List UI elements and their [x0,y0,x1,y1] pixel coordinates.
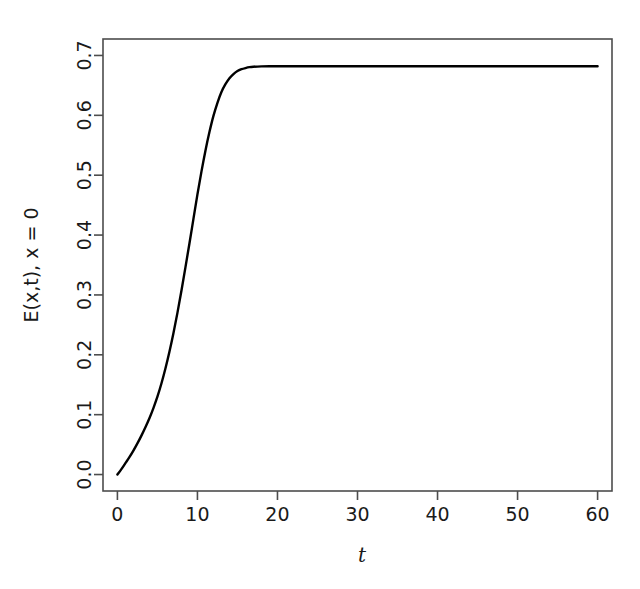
x-axis-tick-label: 0 [111,503,123,525]
y-axis-tick-label: 0.6 [73,100,95,130]
x-axis-tick-label: 20 [265,503,289,525]
y-axis-tick-label: 0.3 [73,280,95,310]
y-axis-tick-label: 0.4 [73,220,95,250]
y-axis-title: E(x,t), x = 0 [20,208,42,323]
y-axis-tick-label: 0.5 [73,160,95,190]
plot-background [103,39,612,491]
y-axis-tick-label: 0.7 [73,40,95,70]
x-axis-title: t [358,543,367,567]
x-axis-tick-label: 50 [505,503,529,525]
y-axis-tick-label: 0.0 [73,459,95,489]
y-axis-tick-label: 0.1 [73,400,95,430]
y-axis: 0.00.10.20.30.40.50.60.7 [73,40,103,489]
x-axis-tick-label: 60 [586,503,610,525]
x-axis-tick-label: 40 [425,503,449,525]
x-axis-tick-label: 30 [345,503,369,525]
line-chart-svg: 0.00.10.20.30.40.50.60.7 0102030405060 E… [0,0,640,589]
y-axis-tick-label: 0.2 [73,340,95,370]
x-axis: 0102030405060 [111,491,609,525]
chart-figure: 0.00.10.20.30.40.50.60.7 0102030405060 E… [0,0,640,589]
x-axis-tick-label: 10 [185,503,209,525]
